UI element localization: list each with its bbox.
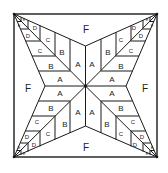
label-d: D bbox=[32, 142, 37, 148]
label-a: A bbox=[89, 108, 95, 117]
label-d: D bbox=[26, 33, 31, 39]
label-b: B bbox=[62, 120, 67, 129]
diagonal-bl bbox=[14, 86, 86, 157]
label-c: C bbox=[46, 37, 51, 43]
diagonal-br bbox=[86, 86, 158, 157]
label-e: E bbox=[151, 23, 154, 28]
label-b: B bbox=[48, 104, 53, 113]
label-a: A bbox=[75, 108, 81, 117]
label-d: D bbox=[33, 25, 38, 31]
label-f-top: F bbox=[83, 24, 89, 35]
label-d: D bbox=[133, 142, 138, 148]
diagonal-tr bbox=[86, 14, 158, 86]
label-e: E bbox=[18, 145, 21, 150]
label-d: D bbox=[139, 33, 144, 39]
label-e: E bbox=[18, 23, 21, 28]
label-d: D bbox=[140, 134, 145, 140]
corner-point-tl bbox=[13, 13, 16, 16]
label-a: A bbox=[57, 75, 63, 84]
label-c: C bbox=[46, 131, 51, 137]
corner-point-bl bbox=[13, 156, 16, 159]
label-f-right: F bbox=[142, 83, 148, 94]
label-f-left: F bbox=[25, 83, 31, 94]
label-c: C bbox=[35, 119, 40, 125]
label-e: E bbox=[146, 17, 149, 22]
label-a: A bbox=[89, 60, 95, 69]
quilt-diagram: F F F F A A A A A A A A B B B B B B B B … bbox=[0, 0, 168, 173]
label-f-bottom: F bbox=[83, 142, 89, 153]
label-e: E bbox=[23, 151, 26, 156]
label-b: B bbox=[48, 62, 53, 71]
label-d: D bbox=[132, 25, 137, 31]
label-a: A bbox=[57, 89, 63, 98]
label-c: C bbox=[119, 37, 124, 43]
label-d: D bbox=[25, 134, 30, 140]
diagonal-tl bbox=[14, 14, 86, 86]
label-a: A bbox=[75, 60, 81, 69]
label-e: E bbox=[146, 151, 149, 156]
label-b: B bbox=[118, 62, 123, 71]
label-b: B bbox=[104, 120, 109, 129]
label-a: A bbox=[109, 75, 115, 84]
label-c: C bbox=[38, 48, 43, 54]
label-b: B bbox=[59, 48, 64, 57]
label-c: C bbox=[129, 48, 134, 54]
label-c: C bbox=[119, 131, 124, 137]
label-a: A bbox=[109, 89, 115, 98]
center-point bbox=[84, 84, 87, 87]
label-e: E bbox=[151, 145, 154, 150]
label-b: B bbox=[105, 48, 110, 57]
corner-point-br bbox=[156, 156, 159, 159]
label-c: C bbox=[131, 119, 136, 125]
label-b: B bbox=[118, 104, 123, 113]
corner-point-tr bbox=[156, 13, 159, 16]
label-e: E bbox=[23, 17, 26, 22]
